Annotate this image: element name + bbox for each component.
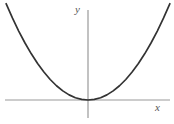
axes-group — [5, 10, 170, 118]
x-axis-label: x — [155, 102, 160, 113]
plot-canvas — [0, 0, 174, 124]
y-axis-label: y — [75, 4, 80, 15]
parabola-figure: y x — [0, 0, 174, 124]
